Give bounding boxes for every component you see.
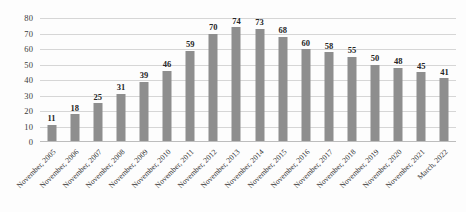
bar[interactable] — [139, 82, 148, 142]
bar[interactable] — [93, 103, 102, 142]
bar-slot: 11 — [40, 18, 63, 142]
bar-slot: 39 — [132, 18, 155, 142]
bar-slot: 41 — [433, 18, 456, 142]
axis-baseline — [40, 141, 456, 142]
bar-value-label: 59 — [186, 40, 195, 49]
bar-value-label: 31 — [117, 83, 126, 92]
bar-slot: 55 — [340, 18, 363, 142]
bar[interactable] — [347, 57, 356, 142]
bar[interactable] — [371, 65, 380, 143]
y-axis-tick-label: 30 — [3, 91, 33, 100]
bar[interactable] — [417, 72, 426, 142]
bar-slot: 68 — [271, 18, 294, 142]
bar-value-label: 50 — [371, 54, 380, 63]
bar-slot: 25 — [86, 18, 109, 142]
bar-value-label: 11 — [48, 114, 56, 123]
bar[interactable] — [186, 51, 195, 142]
bar-value-label: 18 — [70, 104, 79, 113]
bar-slot: 31 — [109, 18, 132, 142]
bar-slot: 46 — [156, 18, 179, 142]
bar[interactable] — [116, 94, 125, 142]
bar-slot: 74 — [225, 18, 248, 142]
bar[interactable] — [209, 34, 218, 143]
bar-value-label: 45 — [417, 62, 426, 71]
x-axis-tick: March, 2022 — [433, 146, 456, 212]
y-axis-tick-label: 20 — [3, 107, 33, 116]
bar-slot: 73 — [248, 18, 271, 142]
bar-value-label: 73 — [255, 18, 264, 27]
bar-value-label: 60 — [302, 39, 311, 48]
bar[interactable] — [324, 52, 333, 142]
bar-slot: 58 — [317, 18, 340, 142]
bar[interactable] — [278, 37, 287, 142]
plot-area: 111825313946597074736860585550484541 — [40, 18, 456, 142]
bar-value-label: 48 — [394, 57, 403, 66]
y-axis-tick-label: 50 — [3, 60, 33, 69]
bar[interactable] — [70, 114, 79, 142]
bar[interactable] — [394, 68, 403, 142]
bar-slot: 45 — [410, 18, 433, 142]
y-axis-tick-label: 70 — [3, 29, 33, 38]
bar-slot: 48 — [387, 18, 410, 142]
bar-slot: 60 — [294, 18, 317, 142]
bar-value-label: 70 — [209, 23, 218, 32]
bar-value-label: 74 — [232, 17, 241, 26]
bar[interactable] — [255, 29, 264, 142]
bar[interactable] — [232, 27, 241, 142]
y-axis-tick-label: 40 — [3, 76, 33, 85]
bar-value-label: 25 — [94, 93, 103, 102]
y-axis-tick-label: 10 — [3, 122, 33, 131]
bar-value-label: 58 — [325, 42, 334, 51]
bar-slot: 70 — [202, 18, 225, 142]
y-axis-tick-label: 0 — [3, 138, 33, 147]
bar-value-label: 39 — [140, 71, 149, 80]
bar-chart: 80706050403020100 1118253139465970747368… — [0, 0, 466, 212]
x-axis: November, 2005November, 2006November, 20… — [40, 146, 456, 212]
bar-slot: 59 — [179, 18, 202, 142]
bar-slot: 50 — [364, 18, 387, 142]
bar-value-label: 55 — [348, 46, 357, 55]
bar-series: 111825313946597074736860585550484541 — [40, 18, 456, 142]
bar[interactable] — [440, 78, 449, 142]
bar-value-label: 68 — [278, 26, 287, 35]
bar-value-label: 41 — [440, 68, 449, 77]
bar[interactable] — [301, 49, 310, 142]
bar[interactable] — [163, 71, 172, 142]
bar[interactable] — [47, 125, 56, 142]
y-axis-tick-label: 80 — [3, 14, 33, 23]
bar-slot: 18 — [63, 18, 86, 142]
bar-value-label: 46 — [163, 60, 172, 69]
y-axis-tick-label: 60 — [3, 45, 33, 54]
